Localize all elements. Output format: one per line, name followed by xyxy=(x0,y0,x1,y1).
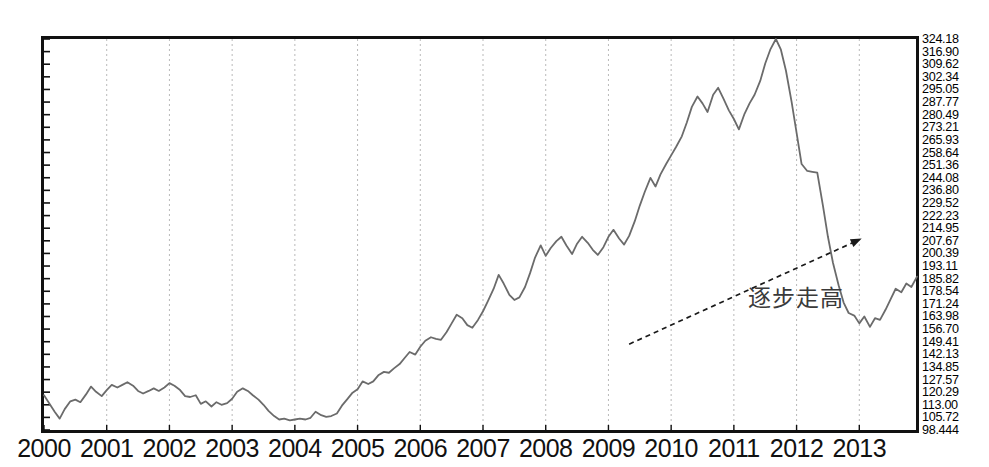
line-chart: 324.18316.90309.62302.34295.05287.77280.… xyxy=(0,0,989,467)
y-tick-label: 287.77 xyxy=(922,96,959,108)
y-tick-label: 200.39 xyxy=(922,247,959,259)
y-tick-label: 127.57 xyxy=(922,374,959,386)
y-tick-label: 207.67 xyxy=(922,235,959,247)
y-tick-label: 185.82 xyxy=(922,273,959,285)
x-tick-label: 2005 xyxy=(331,434,385,463)
y-tick-label: 105.72 xyxy=(922,411,959,423)
gridlines xyxy=(107,39,860,430)
x-tick-label: 2010 xyxy=(644,434,698,463)
y-tick-label: 229.52 xyxy=(922,197,959,209)
x-tick-label: 2002 xyxy=(143,434,197,463)
axis-ticks xyxy=(44,39,859,430)
x-tick-label: 2007 xyxy=(456,434,510,463)
y-tick-label: 156.70 xyxy=(922,323,959,335)
y-tick-label: 222.23 xyxy=(922,210,959,222)
y-tick-label: 309.62 xyxy=(922,58,959,70)
trend-arrow-head-icon xyxy=(850,239,862,247)
y-tick-label: 236.80 xyxy=(922,184,959,196)
x-tick-label: 2009 xyxy=(582,434,636,463)
y-tick-label: 324.18 xyxy=(922,33,959,45)
y-tick-label: 134.85 xyxy=(922,361,959,373)
y-tick-label: 149.41 xyxy=(922,336,959,348)
y-tick-label: 295.05 xyxy=(922,83,959,95)
y-axis-tick-labels: 324.18316.90309.62302.34295.05287.77280.… xyxy=(922,40,988,434)
chart-canvas xyxy=(0,0,989,467)
x-tick-label: 2003 xyxy=(205,434,259,463)
y-tick-label: 302.34 xyxy=(922,71,959,83)
x-tick-label: 2004 xyxy=(268,434,322,463)
y-tick-label: 171.24 xyxy=(922,298,959,310)
x-tick-label: 2011 xyxy=(708,434,760,463)
y-tick-label: 163.98 xyxy=(922,310,959,322)
x-tick-label: 2006 xyxy=(393,434,447,463)
x-tick-label: 2008 xyxy=(519,434,573,463)
x-tick-label: 2012 xyxy=(770,434,824,463)
x-axis-tick-labels: 2000200120022003200420052006200720082009… xyxy=(0,434,989,467)
data-line-index xyxy=(44,39,917,420)
y-tick-label: 193.11 xyxy=(922,260,958,272)
y-tick-label: 258.64 xyxy=(922,147,959,159)
y-tick-label: 265.93 xyxy=(922,134,959,146)
y-tick-label: 142.13 xyxy=(922,348,959,360)
trend-annotation-label: 逐步走高 xyxy=(748,279,844,313)
y-tick-label: 113.00 xyxy=(922,399,958,411)
x-tick-label: 2013 xyxy=(832,434,886,463)
y-tick-label: 316.90 xyxy=(922,46,959,58)
x-tick-label: 2001 xyxy=(80,434,134,463)
y-tick-label: 244.08 xyxy=(922,172,959,184)
y-tick-label: 120.29 xyxy=(922,386,959,398)
x-tick-label: 2000 xyxy=(17,434,71,463)
y-tick-label: 273.21 xyxy=(922,121,959,133)
plot-border xyxy=(43,38,918,432)
y-tick-label: 251.36 xyxy=(922,159,959,171)
y-tick-label: 214.95 xyxy=(922,222,959,234)
y-tick-label: 280.49 xyxy=(922,109,959,121)
y-tick-label: 178.54 xyxy=(922,285,959,297)
